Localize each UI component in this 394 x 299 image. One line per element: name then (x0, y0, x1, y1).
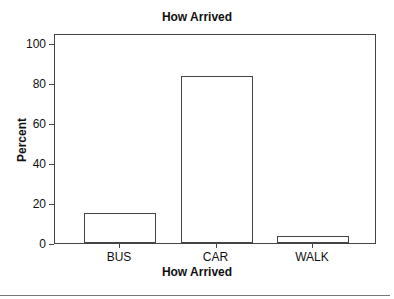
chart-title: How Arrived (0, 10, 394, 24)
bar-bus (84, 213, 156, 243)
y-tick (49, 164, 54, 165)
divider-line (0, 295, 390, 296)
y-tick (49, 84, 54, 85)
bar-car (181, 76, 253, 243)
y-tick (49, 204, 54, 205)
y-tick-label: 20 (33, 198, 46, 210)
x-tick (216, 244, 217, 248)
y-tick (49, 244, 54, 245)
y-tick-label: 100 (26, 38, 46, 50)
plot-frame (54, 34, 376, 244)
y-tick-label: 60 (33, 118, 46, 130)
x-tick (119, 244, 120, 248)
bar-walk (277, 236, 349, 243)
x-tick-label: CAR (176, 250, 256, 264)
y-axis-title: Percent (15, 118, 29, 162)
y-tick-label: 0 (39, 238, 46, 250)
x-tick (312, 244, 313, 248)
x-tick-label: WALK (272, 250, 352, 264)
y-tick-label: 80 (33, 78, 46, 90)
x-tick-label: BUS (79, 250, 159, 264)
x-axis-title: How Arrived (0, 265, 394, 279)
y-tick (49, 44, 54, 45)
y-tick-label: 40 (33, 158, 46, 170)
y-tick (49, 124, 54, 125)
